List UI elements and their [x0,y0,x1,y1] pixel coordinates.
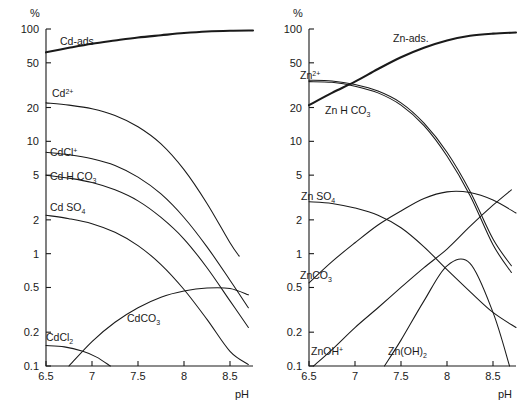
curve-label: Zn SO4 [301,190,335,204]
x-axis-title: pH [498,388,512,400]
x-axis-title: pH [235,388,249,400]
curve-label: CdCO3 [127,312,160,326]
curve-label: Cd SO4 [50,201,86,215]
x-tick-label: 7 [352,370,358,382]
y-tick-label: 0.2 [24,326,39,338]
x-tick-label: 8 [181,370,187,382]
plot-cadmium-speciation: %1005020105210.50.20.16.577.588.5pHCd-ad… [0,0,263,413]
curve-label: Cd-ads [60,35,94,47]
figure-canvas: %1005020105210.50.20.16.577.588.5pHCd-ad… [0,0,527,413]
chart-panel-zinc: %1005020105210.50.20.16.577.588.5pHZn-ad… [263,0,526,413]
curve-label: ZnOH+ [311,345,343,357]
curve-cdco3 [69,288,248,366]
y-tick-label: 2 [33,214,39,226]
curve-label: Cd H CO3 [50,170,97,184]
curve-label: Cd2+ [52,87,73,99]
x-tick-label: 8.5 [485,370,500,382]
x-tick-label: 6.5 [301,370,316,382]
y-tick-label: 0.1 [24,360,39,372]
curve-label: Zn H CO3 [325,104,370,118]
y-tick-label: 5 [296,169,302,181]
y-tick-label: 10 [27,135,39,147]
y-tick-label: 1 [33,248,39,260]
curve-label: Zn(OH)2 [388,345,427,359]
y-tick-label: 1 [296,248,302,260]
curve-cdso4 [46,215,248,364]
curve-label: CdCl2 [46,331,73,345]
x-tick-label: 7.5 [393,370,408,382]
y-tick-label: 0.5 [287,281,302,293]
x-tick-label: 8 [444,370,450,382]
x-tick-label: 6.5 [38,370,53,382]
x-tick-label: 7.5 [130,370,145,382]
y-tick-label: 0.5 [24,281,39,293]
curve-label: Zn-ads. [393,32,429,44]
y-tick-label: 20 [27,102,39,114]
y-tick-label: 50 [27,57,39,69]
curve-znso4 [309,202,516,328]
chart-panel-cadmium: %1005020105210.50.20.16.577.588.5pHCd-ad… [0,0,263,413]
x-tick-label: 7 [89,370,95,382]
y-tick-label: 5 [33,169,39,181]
curve-cdhco3 [46,175,248,327]
y-tick-label: 50 [290,57,302,69]
y-tick-label: 0.1 [287,360,302,372]
axis-frame [309,29,516,366]
y-tick-label: 100 [21,23,39,35]
curve-label: Zn2+ [300,69,320,81]
y-tick-label: 10 [290,135,302,147]
y-tick-label: 100 [284,23,302,35]
x-tick-label: 8.5 [222,370,237,382]
y-tick-label: 2 [296,214,302,226]
y-axis-unit-label: % [30,7,40,19]
plot-zinc-speciation: %1005020105210.50.20.16.577.588.5pHZn-ad… [263,0,526,413]
curve-label: CdCl+ [50,146,77,158]
y-axis-unit-label: % [293,7,303,19]
y-tick-label: 20 [290,102,302,114]
y-tick-label: 0.2 [287,326,302,338]
curve-label: ZnCO3 [300,269,332,283]
